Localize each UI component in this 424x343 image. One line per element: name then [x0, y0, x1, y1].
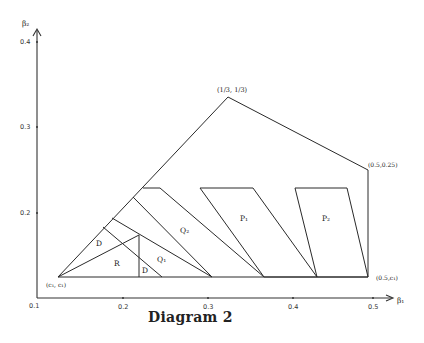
x-tick-0.2: 0.2	[118, 303, 128, 311]
region-label-d-upper: D	[96, 239, 102, 248]
feasible-region-boundary	[58, 97, 368, 277]
x-tick-0.4: 0.4	[288, 303, 298, 311]
x-tick-0.5: 0.5	[368, 303, 378, 311]
region-label-q2: Q₂	[180, 226, 189, 235]
point-label-top-right: (0.5,0.25)	[368, 161, 398, 168]
region-label-p2: P₂	[322, 214, 330, 223]
region-p2	[295, 188, 368, 277]
region-label-p1: P₁	[240, 214, 248, 223]
y-tick-0.4: 0.4	[20, 38, 30, 46]
region-label-r: R	[114, 259, 120, 268]
region-label-d-lower: D	[142, 266, 148, 275]
point-label-bottom-right: (0.5,c₁)	[376, 274, 398, 281]
y-tick-0.2: 0.2	[20, 209, 30, 217]
y-axis-label: β₂	[22, 19, 29, 28]
region-label-q1: Q₁	[157, 255, 166, 264]
point-label-bottom-left: (c₁, c₁)	[46, 281, 66, 288]
region-p1	[200, 188, 317, 277]
x-tick-0.1: 0.1	[29, 302, 39, 310]
diagram-canvas: 0.1 0.2 0.3 0.4 0.5 0.4 0.3 0.2 β₂ β₁ D …	[0, 0, 424, 343]
diagram-title: Diagram 2	[148, 309, 233, 325]
x-axis-label: β₁	[397, 296, 404, 305]
point-label-apex: (1/3, 1/3)	[217, 86, 248, 94]
d-q1-divider	[103, 227, 162, 277]
y-tick-0.3: 0.3	[20, 123, 30, 131]
